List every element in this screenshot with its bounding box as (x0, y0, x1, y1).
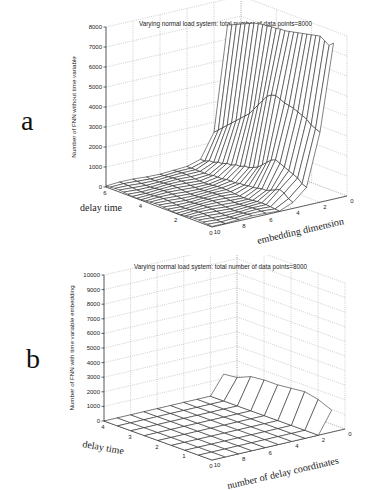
x-tick-label: 4 (295, 443, 299, 449)
y-tick-label: 4 (101, 424, 105, 430)
y-tick-label: 6 (103, 190, 107, 196)
z-tick-label: 0 (99, 184, 103, 190)
x-tick-label: 10 (214, 229, 221, 235)
z-tick-label: 10000 (83, 272, 100, 278)
z-tick-label: 8000 (89, 24, 103, 30)
y-tick-label: 2 (174, 217, 178, 223)
y-tick-label: 2 (155, 444, 159, 450)
x-tick-label: 2 (322, 437, 326, 443)
z-tick-label: 3000 (89, 124, 103, 130)
z-tick-label: 8000 (87, 301, 101, 307)
z-axis-label: Number of FNN with time variable embeddi… (68, 285, 75, 411)
z-tick-label: 2000 (89, 144, 103, 150)
z-tick-label: 7000 (87, 316, 101, 322)
y-axis-label: delay time (82, 438, 126, 456)
surface-mesh (106, 23, 334, 226)
x-tick-label: 6 (269, 450, 273, 456)
z-tick-label: 7000 (89, 44, 103, 50)
x-tick-label: 2 (323, 204, 327, 210)
z-tick-label: 2000 (87, 389, 101, 395)
z-tick-label: 3000 (87, 374, 101, 380)
y-tick-label: 4 (139, 203, 143, 209)
surface-plot-a: 010002000300040005000600070008000Number … (0, 0, 371, 250)
z-tick-label: 0 (97, 418, 101, 424)
z-tick-label: 5000 (87, 345, 101, 351)
x-tick-label: 8 (242, 223, 246, 229)
surface-plot-b: 0100020003000400050006000700080009000100… (0, 255, 371, 490)
z-tick-label: 1000 (89, 164, 103, 170)
z-axis-label: Number of FNN without time variable (70, 56, 77, 158)
chart-panel-a: a Varying normal load system: total numb… (0, 0, 371, 250)
y-axis-label: delay time (80, 202, 122, 213)
z-tick-label: 9000 (87, 287, 101, 293)
x-tick-label: 0 (348, 431, 352, 437)
z-tick-label: 5000 (89, 84, 103, 90)
x-tick-label: 10 (214, 462, 221, 468)
x-tick-label: 6 (269, 217, 273, 223)
z-tick-label: 6000 (89, 64, 103, 70)
y-tick-label: 1 (182, 453, 186, 459)
y-tick-label: 3 (128, 434, 132, 440)
z-tick-label: 4000 (87, 360, 101, 366)
x-tick-label: 8 (242, 456, 246, 462)
z-tick-label: 4000 (89, 104, 103, 110)
z-tick-label: 1000 (87, 403, 101, 409)
chart-panel-b: b Varying normal load system: total numb… (0, 255, 371, 490)
x-tick-label: 0 (350, 198, 354, 204)
x-tick-label: 4 (296, 210, 300, 216)
z-tick-label: 6000 (87, 330, 101, 336)
